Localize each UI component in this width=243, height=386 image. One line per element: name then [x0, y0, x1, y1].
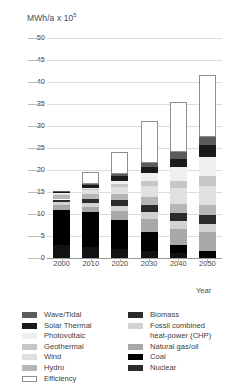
- legend-label: Photovoltaic: [44, 331, 85, 342]
- bar-segment: [111, 152, 128, 175]
- legend-swatch: [128, 344, 143, 350]
- legend-swatch: [22, 365, 37, 371]
- bar-segment: [141, 205, 158, 212]
- legend-label: Solar Thermal: [44, 321, 92, 332]
- gridline: [47, 236, 222, 237]
- legend-swatch: [128, 312, 143, 318]
- bar-segment: [199, 205, 216, 215]
- legend-swatch: [22, 354, 37, 360]
- bar-segment: [170, 213, 187, 221]
- bar-segment: [141, 181, 158, 186]
- bar-segment: [82, 184, 99, 185]
- chart-legend: Wave/TidalSolar ThermalPhotovoltaicGeoth…: [22, 310, 237, 384]
- legend-item[interactable]: Fossil combined: [128, 321, 238, 332]
- legend-item[interactable]: Wind: [22, 352, 128, 363]
- y-axis-tick-rule: [28, 170, 45, 171]
- bar-segment: [111, 220, 128, 249]
- legend-swatch: [22, 312, 37, 318]
- legend-swatch: [22, 376, 37, 382]
- bar-segment: [111, 184, 128, 187]
- bar-segment: [199, 215, 216, 224]
- bar-segment: [141, 167, 158, 173]
- bar-segment: [82, 194, 99, 199]
- legend-label: Natural gas/oil: [150, 342, 199, 353]
- y-axis-tick-rule: [28, 82, 45, 83]
- bar-segment: [82, 199, 99, 203]
- legend-label: Wind: [44, 352, 61, 363]
- legend-item[interactable]: heat-power (CHP): [128, 331, 238, 342]
- legend-item[interactable]: Solar Thermal: [22, 321, 128, 332]
- legend-label: Biomass: [150, 310, 179, 321]
- x-axis-label: Year: [196, 286, 211, 295]
- bar-segment: [53, 192, 70, 193]
- bar-segment: [170, 102, 187, 153]
- legend-item[interactable]: Hydro: [22, 363, 128, 374]
- bar-segment: [111, 211, 128, 220]
- legend-item[interactable]: Geothermal: [22, 342, 128, 353]
- plot-area: [47, 38, 222, 258]
- bar-segment: [199, 224, 216, 232]
- bar-segment: [53, 194, 70, 195]
- bar-segment: [82, 207, 99, 213]
- bar-segment: [141, 219, 158, 232]
- legend-swatch: [128, 365, 143, 371]
- legend-item[interactable]: Nuclear: [128, 363, 238, 374]
- bar-segment: [141, 163, 158, 167]
- bar-segment: [111, 194, 128, 201]
- bar-segment: [82, 189, 99, 190]
- legend-column-right: BiomassFossil combinedheat-power (CHP)Na…: [128, 310, 238, 374]
- legend-swatch: [22, 333, 37, 339]
- bar-segment: [170, 229, 187, 245]
- bar-segment: [199, 137, 216, 146]
- bar-segment: [170, 221, 187, 229]
- y-axis-labels: 05101520253035404550: [0, 38, 45, 258]
- legend-item[interactable]: Efficiency: [22, 374, 128, 385]
- bar-column[interactable]: [82, 172, 99, 258]
- bar-segment: [199, 186, 216, 205]
- bar-segment: [170, 181, 187, 188]
- bar-segment: [53, 205, 70, 210]
- bar-segment: [111, 174, 128, 176]
- legend-label: Wave/Tidal: [44, 310, 81, 321]
- legend-item[interactable]: Wave/Tidal: [22, 310, 128, 321]
- bar-segment: [141, 121, 158, 163]
- gridline: [47, 104, 222, 105]
- bar-segment: [111, 206, 128, 212]
- y-axis-tick-rule: [28, 236, 45, 237]
- bar-segment: [82, 172, 99, 184]
- bar-column[interactable]: [53, 192, 70, 258]
- bar-column[interactable]: [170, 102, 187, 258]
- bar-segment: [170, 188, 187, 204]
- legend-item[interactable]: Natural gas/oil: [128, 342, 238, 353]
- bar-segment: [141, 251, 158, 258]
- y-axis-tick-rule: [28, 38, 45, 39]
- legend-swatch: [128, 354, 143, 360]
- gridline: [47, 82, 222, 83]
- y-axis-tick-rule: [28, 214, 45, 215]
- legend-swatch: [128, 323, 143, 329]
- legend-label: Fossil combined: [150, 321, 205, 332]
- bar-segment: [170, 152, 187, 158]
- bar-column[interactable]: [111, 152, 128, 258]
- bar-segment: [111, 200, 128, 205]
- bar-segment: [82, 203, 99, 207]
- bar-column[interactable]: [199, 75, 216, 258]
- bar-segment: [82, 190, 99, 194]
- bar-segment: [53, 245, 70, 258]
- legend-item[interactable]: Photovoltaic: [22, 331, 128, 342]
- bar-segment: [199, 75, 216, 136]
- bar-segment: [53, 191, 70, 192]
- gridline: [47, 148, 222, 149]
- y-axis-title-exponent: 5: [73, 12, 76, 18]
- y-axis-title-text: MWh/a x 10: [27, 13, 73, 23]
- legend-column-left: Wave/TidalSolar ThermalPhotovoltaicGeoth…: [22, 310, 128, 384]
- bar-column[interactable]: [141, 121, 158, 258]
- legend-item[interactable]: Coal: [128, 352, 238, 363]
- y-axis-tick-rule: [28, 60, 45, 61]
- bar-segment: [111, 187, 128, 194]
- y-axis-tick-rule: [28, 148, 45, 149]
- legend-label: Nuclear: [150, 363, 176, 374]
- legend-item[interactable]: Biomass: [128, 310, 238, 321]
- y-axis-title: MWh/a x 105: [27, 13, 77, 23]
- x-axis-tick-label: 2050: [187, 259, 227, 268]
